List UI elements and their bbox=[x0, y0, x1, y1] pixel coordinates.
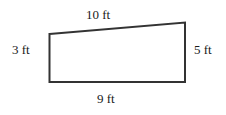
label-left-side: 3 ft bbox=[12, 43, 30, 56]
trapezoid-shape bbox=[50, 23, 186, 83]
label-right-side: 5 ft bbox=[194, 43, 212, 56]
label-bottom-side: 9 ft bbox=[97, 92, 115, 105]
label-top-side: 10 ft bbox=[86, 8, 110, 21]
